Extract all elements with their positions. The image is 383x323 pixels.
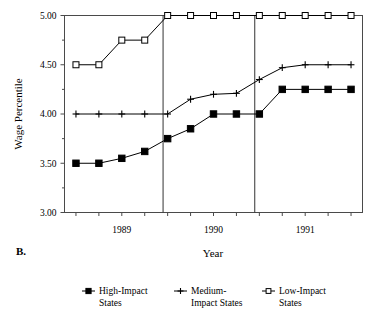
legend-label: Low-Impact <box>279 286 326 296</box>
y-tick-label: 4.00 <box>40 109 57 119</box>
filled-square-marker <box>279 86 285 92</box>
open-square-marker <box>211 13 217 19</box>
filled-square-marker <box>164 135 170 141</box>
open-square-marker <box>233 13 239 19</box>
y-axis: 3.003.504.004.505.00 <box>40 11 65 218</box>
open-square-marker <box>302 13 308 19</box>
legend: High-ImpactStatesMedium-Impact StatesLow… <box>82 286 326 308</box>
legend-label: High-Impact <box>99 286 148 296</box>
y-tick-label: 4.50 <box>40 60 57 70</box>
wage-percentile-chart: 3.003.504.004.505.00 198919901991 Wage P… <box>0 0 383 323</box>
x-tick-label: 1989 <box>112 225 131 235</box>
x-tick-label: 1991 <box>296 225 315 235</box>
filled-square-marker <box>302 86 308 92</box>
series-line <box>76 89 351 163</box>
filled-square-marker <box>96 160 102 166</box>
open-square-marker <box>188 13 194 19</box>
filled-square-marker <box>325 86 331 92</box>
data-series-group <box>73 13 355 167</box>
filled-square-marker <box>233 111 239 117</box>
open-square-marker <box>279 13 285 19</box>
open-square-marker <box>266 289 271 294</box>
y-tick-label: 3.50 <box>40 159 57 169</box>
filled-square-marker <box>256 111 262 117</box>
legend-item[interactable]: Low-ImpactStates <box>262 286 326 308</box>
panel-label: B. <box>16 245 26 257</box>
filled-square-marker <box>86 288 91 293</box>
series-line <box>76 16 351 65</box>
y-tick-label: 3.00 <box>40 208 57 218</box>
x-axis: 198919901991 <box>76 213 351 235</box>
open-square-marker <box>325 13 331 19</box>
series-open-square <box>73 13 354 68</box>
legend-label-line2: States <box>279 298 302 308</box>
x-axis-title: Year <box>203 247 224 259</box>
open-square-marker <box>119 37 125 43</box>
filled-square-marker <box>73 160 79 166</box>
open-square-marker <box>73 62 79 68</box>
filled-square-marker <box>348 86 354 92</box>
series-filled-square <box>73 86 354 166</box>
open-square-marker <box>165 13 171 19</box>
filled-square-marker <box>187 126 193 132</box>
legend-label: Medium- <box>191 286 226 296</box>
open-square-marker <box>142 37 148 43</box>
open-square-marker <box>96 62 102 68</box>
legend-label-line2: States <box>99 298 122 308</box>
legend-label-line2: Impact States <box>191 298 243 308</box>
filled-square-marker <box>142 148 148 154</box>
filled-square-marker <box>119 155 125 161</box>
open-square-marker <box>256 13 262 19</box>
y-axis-title: Wage Percentile <box>12 78 24 150</box>
open-square-marker <box>348 13 354 19</box>
filled-square-marker <box>210 111 216 117</box>
legend-item[interactable]: High-ImpactStates <box>82 286 148 308</box>
y-tick-label: 5.00 <box>40 11 57 21</box>
legend-item[interactable]: Medium-Impact States <box>174 286 243 308</box>
x-tick-label: 1990 <box>204 225 223 235</box>
